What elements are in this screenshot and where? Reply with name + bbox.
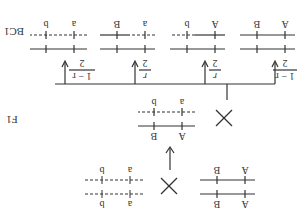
allele-label: B [113, 19, 120, 30]
fraction-denominator: 2 [80, 58, 85, 69]
allele-label: a [127, 199, 132, 210]
parent-ab-dashed-chromosomes [85, 180, 143, 194]
allele-label: A [281, 19, 289, 30]
allele-label: a [127, 165, 132, 176]
allele-label: b [152, 97, 157, 108]
bc1-offspring-4 [30, 31, 87, 53]
fraction-numerator: 1 − r [275, 71, 295, 82]
fraction-numerator: r [143, 71, 147, 82]
bc1-offspring-2 [170, 31, 225, 53]
allele-label: B [253, 19, 260, 30]
allele-label: A [178, 131, 186, 142]
allele-label: a [71, 19, 76, 30]
fraction-denominator: 2 [213, 58, 218, 69]
allele-label: B [150, 131, 157, 142]
fraction-numerator: 1 − r [72, 71, 92, 82]
arrow-to-f1-icon [166, 147, 174, 170]
allele-label: b [100, 165, 105, 176]
allele-label: a [179, 97, 184, 108]
parent-ab-solid-chromosomes [200, 176, 255, 198]
genetics-crossover-diagram: A B A B a b a b A B a b a F1 1 − r 2 r 2… [0, 0, 305, 214]
allele-label: b [100, 199, 105, 210]
allele-label: B [213, 165, 220, 176]
parent-cross-icon [161, 178, 177, 194]
allele-label: A [241, 165, 249, 176]
allele-label: b [44, 19, 49, 30]
bc1-generation-label: BC1 [4, 26, 24, 38]
allele-label: B [213, 199, 220, 210]
fraction-numerator: r [213, 71, 217, 82]
f1-cross-icon [216, 110, 232, 126]
fraction-denominator: 2 [283, 58, 288, 69]
allele-label: A [241, 199, 249, 210]
f1-generation-label: F1 [6, 114, 18, 126]
allele-label: A [211, 19, 219, 30]
bc1-offspring-1 [240, 31, 295, 53]
fraction-denominator: 2 [143, 58, 148, 69]
allele-label: b [185, 19, 190, 30]
allele-label: a [142, 19, 147, 30]
f1-chromosomes [138, 108, 195, 130]
bc1-offspring-3 [100, 31, 155, 53]
